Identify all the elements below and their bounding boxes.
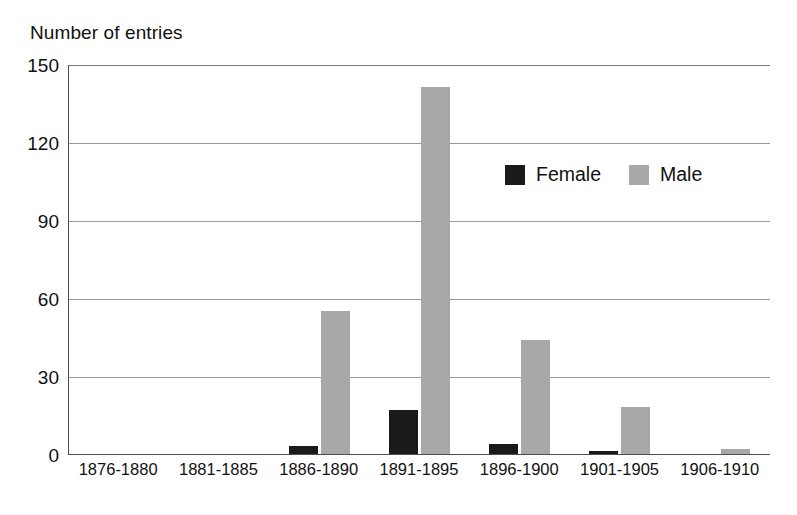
legend-label: Male <box>660 163 702 186</box>
y-axis-tick-label: 30 <box>0 368 68 387</box>
category-group <box>169 65 269 454</box>
bars-layer <box>69 65 770 454</box>
bar-male-1896-1900[interactable] <box>521 340 550 454</box>
bar-chart: Number of entries 0306090120150 1876-188… <box>0 0 797 515</box>
bar-female-1891-1895[interactable] <box>389 410 418 454</box>
x-axis-tick-label: 1891-1895 <box>369 460 469 479</box>
bar-female-1896-1900[interactable] <box>489 444 518 454</box>
category-group <box>369 65 469 454</box>
x-axis-tick-label: 1876-1880 <box>68 460 168 479</box>
legend-swatch-gray-icon <box>629 165 649 185</box>
category-group <box>470 65 570 454</box>
x-axis-tick-label: 1901-1905 <box>569 460 669 479</box>
legend-swatch-black-icon <box>505 165 525 185</box>
y-axis-tick-label: 150 <box>0 56 68 75</box>
x-axis-tick-label: 1896-1900 <box>469 460 569 479</box>
bar-female-1886-1890[interactable] <box>289 446 318 454</box>
y-axis-tick-label: 90 <box>0 212 68 231</box>
x-axis-tick-label: 1886-1890 <box>269 460 369 479</box>
category-group <box>570 65 670 454</box>
category-group <box>69 65 169 454</box>
y-axis-tick-label: 0 <box>0 446 68 465</box>
plot-area: 0306090120150 <box>68 65 770 455</box>
category-group <box>269 65 369 454</box>
x-axis-tick-labels: 1876-18801881-18851886-18901891-18951896… <box>68 460 770 479</box>
legend-label: Female <box>536 163 601 186</box>
category-group <box>670 65 770 454</box>
x-axis-tick-label: 1906-1910 <box>670 460 770 479</box>
y-axis-title: Number of entries <box>30 22 183 44</box>
bar-male-1906-1910[interactable] <box>721 449 750 454</box>
y-axis-tick-label: 60 <box>0 290 68 309</box>
bar-male-1891-1895[interactable] <box>421 87 450 454</box>
bar-male-1901-1905[interactable] <box>621 407 650 454</box>
bar-female-1901-1905[interactable] <box>589 451 618 454</box>
y-axis-tick-label: 120 <box>0 134 68 153</box>
bar-male-1886-1890[interactable] <box>321 311 350 454</box>
legend-entry-male[interactable]: Male <box>629 163 702 186</box>
legend-entry-female[interactable]: Female <box>505 163 601 186</box>
chart-legend: FemaleMale <box>505 163 702 186</box>
x-axis-tick-label: 1881-1885 <box>168 460 268 479</box>
